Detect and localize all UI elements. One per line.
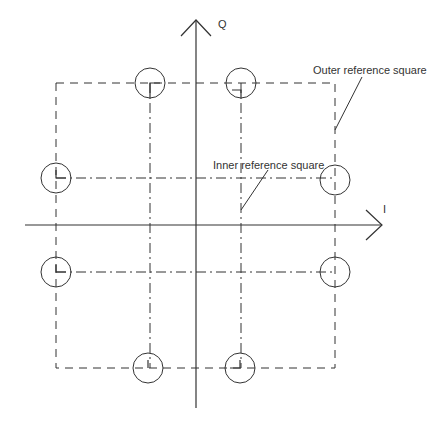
outer-square-label: Outer reference square	[313, 64, 427, 76]
outer-leader-line	[335, 77, 362, 130]
i-axis-label: I	[383, 203, 386, 215]
constellation-diagram: Q I Outer reference square Inner referen…	[0, 0, 437, 429]
inner-square-label: Inner reference square	[213, 159, 324, 171]
q-axis-label: Q	[218, 18, 227, 30]
inner-leader-line	[241, 170, 268, 210]
